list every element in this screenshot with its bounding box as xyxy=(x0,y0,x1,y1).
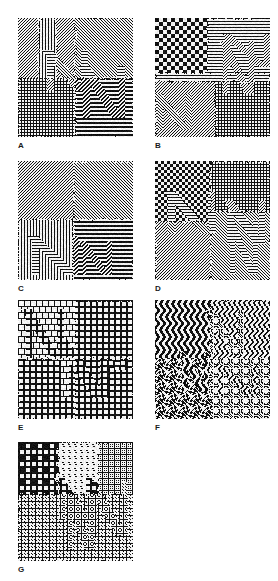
panel-a-texture-image xyxy=(18,18,133,137)
panel-d: D xyxy=(155,161,270,300)
panel-f-texture-image xyxy=(155,300,270,419)
panel-label-f: F xyxy=(155,423,160,432)
panel-label-e: E xyxy=(18,423,24,432)
panel-label-b: B xyxy=(155,141,161,150)
panel-c-texture-image xyxy=(18,161,133,280)
panel-f: F xyxy=(155,300,270,439)
panel-label-g: G xyxy=(18,565,24,574)
panel-c: C xyxy=(18,161,133,300)
panel-d-texture-image xyxy=(155,161,270,280)
panel-label-d: D xyxy=(155,284,161,293)
panel-label-c: C xyxy=(18,284,24,293)
panel-e-texture-image xyxy=(18,300,133,419)
panel-label-a: A xyxy=(18,141,24,150)
panel-g: G xyxy=(18,442,133,581)
panel-e: E xyxy=(18,300,133,439)
panel-a: A xyxy=(18,18,133,157)
texture-figure: ABCDEFG xyxy=(0,0,278,581)
panel-b: B xyxy=(155,18,270,157)
panel-b-texture-image xyxy=(155,18,270,137)
panel-g-texture-image xyxy=(18,442,133,561)
